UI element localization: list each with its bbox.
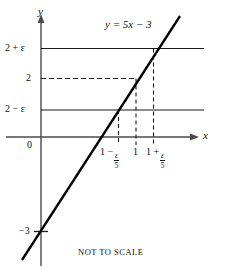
limit-epsilon-delta-figure: y x y = 5x − 3 0 2 + ε 2 2 − ε −3 1 −ε5 …	[0, 0, 226, 270]
x-tick-upper-delta-numerator: ε	[160, 152, 165, 161]
y-tick-label-two: 2	[26, 73, 31, 83]
x-tick-lower-delta-denominator: 5	[114, 161, 120, 169]
x-tick-label-one: 1	[133, 147, 138, 157]
x-tick-lower-delta-numerator: ε	[114, 152, 119, 161]
origin-label: 0	[27, 140, 32, 150]
y-tick-label-upper-epsilon: 2 + ε	[5, 43, 25, 53]
curve-y-equals-5x-minus-3	[22, 16, 180, 260]
x-tick-upper-delta-denominator: 5	[160, 161, 166, 169]
x-tick-label-upper-delta: 1 +ε5	[146, 147, 166, 169]
equation-label: y = 5x − 3	[105, 19, 152, 30]
x-tick-lower-delta-fraction: ε5	[114, 152, 120, 169]
x-tick-lower-delta-lead: 1 −	[100, 146, 113, 157]
x-tick-upper-delta-fraction: ε5	[160, 152, 166, 169]
x-tick-label-lower-delta: 1 −ε5	[100, 147, 120, 169]
x-tick-upper-delta-lead: 1 +	[146, 146, 159, 157]
not-to-scale-caption: NOT TO SCALE	[78, 248, 144, 257]
y-axis-label: y	[38, 6, 43, 17]
x-axis-label: x	[203, 130, 208, 141]
y-tick-label-lower-epsilon: 2 − ε	[5, 104, 25, 114]
figure-canvas	[0, 0, 226, 270]
y-tick-label-minus-three: −3	[19, 226, 30, 236]
